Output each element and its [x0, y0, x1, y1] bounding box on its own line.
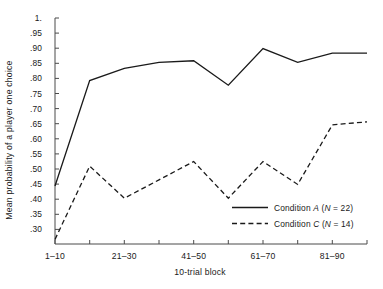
y-axis-title: Mean probability of a player one choice [4, 60, 14, 219]
y-tick-label: .65 [30, 119, 42, 129]
legend-label-condition-a: Condition A (N = 22) [274, 203, 353, 213]
x-axis-title: 10-trial block [174, 267, 226, 277]
y-tick-label: 1. [35, 13, 42, 23]
y-tick-label: .30 [30, 224, 42, 234]
x-tick-label: 61–70 [251, 251, 276, 261]
y-tick-label: .95 [30, 28, 42, 38]
y-tick-label: .45 [30, 179, 42, 189]
y-tick-label: .90 [30, 43, 42, 53]
x-tick-label: 81–90 [320, 251, 345, 261]
legend: Condition A (N = 22) Condition C (N = 14… [232, 203, 354, 229]
x-tick-label: 21–30 [112, 251, 137, 261]
y-tick-label: .35 [30, 209, 42, 219]
y-tick-label: .60 [30, 134, 42, 144]
y-tick-label: .75 [30, 89, 42, 99]
x-tick-label-group: 1–10 21–30 41–50 61–70 81–90 [45, 251, 345, 261]
x-tick-label: 41–50 [181, 251, 206, 261]
y-tick-label: .80 [30, 73, 42, 83]
y-tick-label: .70 [30, 104, 42, 114]
legend-label-condition-c: Condition C (N = 14) [274, 219, 354, 229]
y-tick-label: .55 [30, 149, 42, 159]
y-tick-label-group: 1. .95 .90 .85 .80 .75 .70 .65 .60 .55 .… [30, 13, 42, 234]
series-line-condition-a [55, 49, 367, 186]
y-tick-label: .85 [30, 58, 42, 68]
y-tick-label: .50 [30, 164, 42, 174]
y-axis [55, 18, 59, 244]
chart-figure: Mean probability of a player one choice … [0, 0, 383, 289]
x-axis [55, 240, 367, 244]
x-tick-label: 1–10 [45, 251, 65, 261]
y-tick-label: .40 [30, 194, 42, 204]
line-chart-canvas: Mean probability of a player one choice … [0, 0, 383, 289]
